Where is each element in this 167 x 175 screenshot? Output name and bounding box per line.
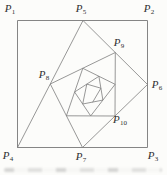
outer-square [18,21,148,148]
figure-canvas: P1 P2 P3 P4 P5 P6 P7 P8 P9 P10 [0,0,167,175]
page-bleed-artifact [4,168,162,172]
spiral-path [18,21,148,148]
nested-squares-figure [0,0,167,175]
